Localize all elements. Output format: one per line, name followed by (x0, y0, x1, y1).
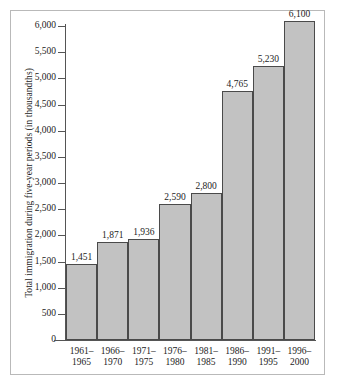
y-axis-tick (58, 52, 65, 53)
y-axis-tick-label: 6,000 (5, 21, 56, 31)
y-axis-tick (58, 314, 65, 315)
y-axis-tick-label-text: 2,500 (10, 204, 56, 214)
y-axis-tick (58, 131, 65, 132)
bar-value-label: 4,765 (216, 79, 259, 89)
bar-value-label: 2,800 (185, 181, 228, 191)
x-axis-label: 1996–2000 (279, 346, 320, 368)
bar-value-label: 1,936 (122, 227, 165, 237)
y-axis-tick-label: 2,000 (5, 230, 56, 240)
y-axis-tick (58, 209, 65, 210)
bar-value-label: 5,230 (247, 54, 290, 64)
figure: Total immigration during five-year perio… (0, 0, 337, 385)
bar-value-label: 1,451 (60, 252, 103, 262)
bar-value-label: 2,590 (153, 192, 196, 202)
x-axis-label-end-year: 2000 (279, 357, 320, 368)
y-axis-tick-label: 5,000 (5, 73, 56, 83)
bar[interactable] (222, 91, 253, 340)
y-axis-tick-label: 4,500 (5, 100, 56, 110)
y-axis-tick (58, 26, 65, 27)
y-axis-tick-label: 3,000 (5, 178, 56, 188)
y-axis-tick-label-text: 6,000 (10, 21, 56, 31)
y-axis-tick-label: 1,500 (5, 257, 56, 267)
y-axis-tick-label-text: 3,500 (10, 152, 56, 162)
bar[interactable] (159, 204, 190, 340)
bar[interactable] (128, 239, 159, 340)
y-axis-tick-label: 2,500 (5, 204, 56, 214)
bar[interactable] (191, 193, 222, 340)
y-axis-tick (58, 235, 65, 236)
y-axis-tick-label-text: 3,000 (10, 178, 56, 188)
x-axis-label-start-year: 1996– (279, 346, 320, 357)
y-axis-tick-label-text: 4,000 (10, 126, 56, 136)
y-axis-tick-label: 4,000 (5, 126, 56, 136)
bar-value-label: 6,100 (278, 9, 321, 19)
y-axis-tick-label-text: 5,500 (10, 47, 56, 57)
y-axis-tick (58, 288, 65, 289)
y-axis-tick-label: 500 (5, 309, 56, 319)
y-axis-tick-label-text: 500 (10, 309, 56, 319)
y-axis-tick-label: 1,000 (5, 283, 56, 293)
y-axis-tick-label-text: 1,000 (10, 283, 56, 293)
y-axis-tick-label-text: 4,500 (10, 100, 56, 110)
y-axis-tick-label-text: 5,000 (10, 73, 56, 83)
bar[interactable] (253, 66, 284, 340)
y-axis-tick-label: 3,500 (5, 152, 56, 162)
y-axis-tick-label: 0 (5, 335, 56, 345)
y-axis-tick-label-text: 2,000 (10, 230, 56, 240)
y-axis-tick (58, 105, 65, 106)
y-axis-tick (58, 157, 65, 158)
y-axis-tick-label-text: 0 (10, 335, 56, 345)
y-axis-tick-label: 5,500 (5, 47, 56, 57)
y-axis-tick (58, 183, 65, 184)
bar[interactable] (66, 264, 97, 340)
bar[interactable] (284, 21, 315, 340)
y-axis-tick (58, 78, 65, 79)
y-axis-tick-label-text: 1,500 (10, 257, 56, 267)
x-axis-line (54, 340, 316, 341)
